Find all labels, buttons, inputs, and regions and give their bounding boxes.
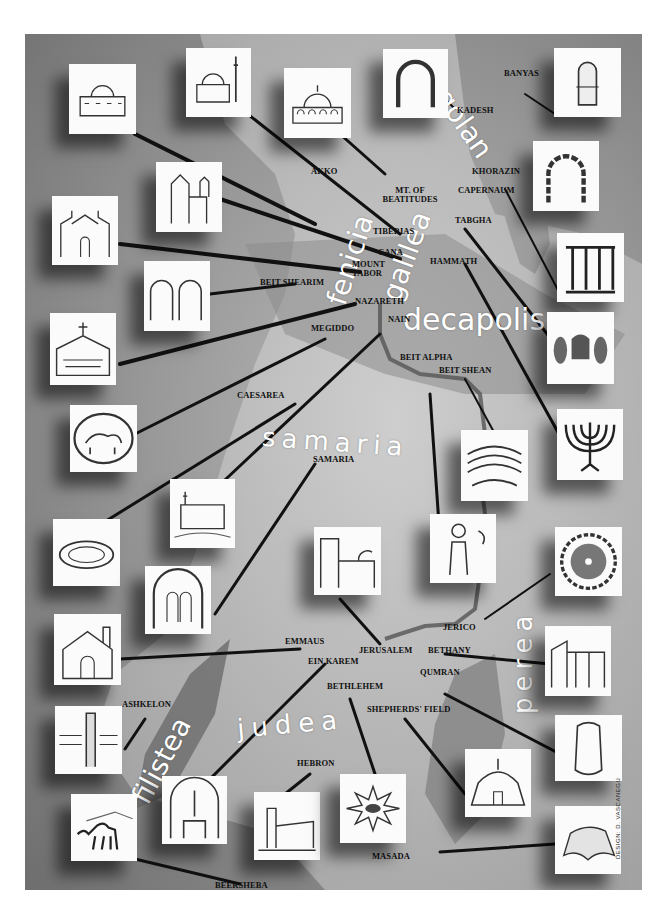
tile-minaret-mosque[interactable] bbox=[186, 48, 251, 117]
place-jerico: JERICO bbox=[443, 623, 476, 632]
place-ein-karem: EIN KAREM bbox=[308, 657, 359, 666]
place-shepherds-field: SHEPHERDS' FIELD bbox=[367, 705, 451, 714]
synagogue-columns-icon bbox=[557, 233, 624, 302]
place-samaria-town: SAMARIA bbox=[313, 455, 354, 464]
stone-arch-icon bbox=[383, 49, 448, 118]
tile-cana-church[interactable] bbox=[52, 196, 118, 265]
star-icon bbox=[340, 774, 406, 843]
place-hammath: HAMMATH bbox=[430, 257, 477, 266]
mosaic-figure-icon bbox=[430, 514, 496, 583]
tile-nain-chapel[interactable] bbox=[170, 479, 235, 548]
tile-banyas-niche[interactable] bbox=[554, 48, 621, 117]
tile-samaria-arch[interactable] bbox=[145, 566, 211, 634]
tile-tabgha-fishes[interactable] bbox=[547, 312, 614, 384]
tile-shepherds-chapel[interactable] bbox=[465, 749, 531, 817]
well-icon bbox=[162, 776, 227, 844]
designer-signature: DESIGN: D. VASCANEGU bbox=[615, 778, 621, 859]
round-mosaic-icon bbox=[555, 527, 622, 596]
tile-emmaus-church[interactable] bbox=[54, 614, 121, 685]
town-tower-icon bbox=[254, 792, 320, 860]
tile-masada-rock[interactable] bbox=[555, 806, 621, 874]
place-capernaum: CAPERNAUM bbox=[458, 186, 515, 195]
church-facade-icon bbox=[52, 196, 118, 265]
place-akko: AKKO bbox=[311, 167, 337, 176]
theater-icon bbox=[461, 430, 528, 501]
tile-beatitudes-church[interactable] bbox=[284, 68, 351, 138]
region-perea: perea bbox=[508, 609, 538, 714]
place-tabgha: TABGHA bbox=[455, 216, 492, 225]
place-beersheba: BEERSHEBA bbox=[215, 881, 268, 890]
holy-sepulchre-icon bbox=[314, 527, 381, 595]
place-hebron: HEBRON bbox=[297, 759, 334, 768]
chapel-icon bbox=[170, 479, 235, 548]
place-nazareth: NAZARETH bbox=[355, 297, 404, 306]
camel-tent-icon bbox=[71, 794, 137, 861]
place-banyas: BANYAS bbox=[504, 69, 539, 78]
place-bethany: BETHANY bbox=[428, 646, 471, 655]
place-megiddo: MEGIDDO bbox=[311, 324, 354, 333]
tile-capernaum-synagogue[interactable] bbox=[557, 233, 624, 302]
map-poster: golan galilea fenicia decapolis samaria … bbox=[25, 34, 642, 890]
tile-megiddo-seal[interactable] bbox=[70, 405, 137, 472]
twin-tower-church-icon bbox=[156, 162, 222, 232]
region-decapolis: decapolis bbox=[403, 302, 545, 337]
place-beit-shean: BEIT SHEAN bbox=[439, 366, 492, 375]
tile-jerico-mosaic[interactable] bbox=[555, 527, 622, 596]
place-ashkelon: ASHKELON bbox=[122, 700, 171, 709]
basilica-icon bbox=[50, 313, 116, 385]
pillar-ruins-icon bbox=[55, 706, 122, 774]
loaves-fishes-icon bbox=[547, 312, 614, 384]
tile-beit-alpha-mosaic[interactable] bbox=[430, 514, 496, 583]
amphitheater-icon bbox=[53, 519, 120, 586]
domed-building-icon bbox=[69, 64, 136, 134]
octagonal-church-icon bbox=[284, 68, 351, 138]
place-bethlehem: BETHLEHEM bbox=[327, 682, 383, 691]
mesa-rock-icon bbox=[555, 806, 621, 874]
tile-bethlehem-star[interactable] bbox=[340, 774, 406, 843]
tile-tiberias-church[interactable] bbox=[156, 162, 222, 232]
arched-window-icon bbox=[145, 566, 211, 634]
scroll-jar-icon bbox=[555, 715, 622, 781]
cave-arches-icon bbox=[144, 261, 210, 331]
tile-beit-shearim-caves[interactable] bbox=[144, 261, 210, 331]
place-beit-shearim: BEIT SHEARIM bbox=[260, 278, 324, 287]
tile-qumran-jar[interactable] bbox=[555, 715, 622, 781]
place-emmaus: EMMAUS bbox=[285, 637, 324, 646]
rock-niche-icon bbox=[554, 48, 621, 117]
tile-akko-mosque[interactable] bbox=[69, 64, 136, 134]
tile-beit-shean-theater[interactable] bbox=[461, 430, 528, 501]
tile-kadesh-arch[interactable] bbox=[383, 49, 448, 118]
tile-ein-karem-well[interactable] bbox=[162, 776, 227, 844]
place-beit-alpha: BEIT ALPHA bbox=[400, 353, 453, 362]
tile-hebron-town[interactable] bbox=[254, 792, 320, 860]
tent-chapel-icon bbox=[465, 749, 531, 817]
tile-caesarea-amphitheater[interactable] bbox=[53, 519, 120, 586]
place-jerusalem: JERUSALEM bbox=[359, 646, 412, 655]
lion-seal-icon bbox=[70, 405, 137, 472]
place-kadesh: KADESH bbox=[457, 106, 494, 115]
place-mount-tabor: MOUNT TABOR bbox=[352, 260, 392, 278]
mosque-minaret-icon bbox=[186, 48, 251, 117]
church-ruins-icon bbox=[545, 626, 611, 696]
tile-ashkelon-pillar[interactable] bbox=[55, 706, 122, 774]
place-khorazin: KHORAZIN bbox=[472, 167, 520, 176]
menorah-icon bbox=[557, 409, 623, 480]
tile-jerusalem-sepulchre[interactable] bbox=[314, 527, 381, 595]
place-nain: NAIN bbox=[388, 315, 410, 324]
tile-nazareth-basilica[interactable] bbox=[50, 313, 116, 385]
place-caesarea: CAESAREA bbox=[237, 391, 285, 400]
ruined-arch-icon bbox=[533, 141, 599, 211]
tile-bethany-church[interactable] bbox=[545, 626, 611, 696]
place-masada: MASADA bbox=[372, 852, 410, 861]
tile-khorazin-arch[interactable] bbox=[533, 141, 599, 211]
tile-hammath-menorah[interactable] bbox=[557, 409, 623, 480]
place-qumran: QUMRAN bbox=[420, 668, 460, 677]
place-tiberias: TIBERIAS bbox=[373, 227, 414, 236]
place-mt-beatitudes: MT. OF BEATITUDES bbox=[380, 186, 440, 204]
place-cana: CANA bbox=[378, 248, 403, 257]
tile-beersheba-camel[interactable] bbox=[71, 794, 137, 861]
church-facade-icon bbox=[54, 614, 121, 685]
